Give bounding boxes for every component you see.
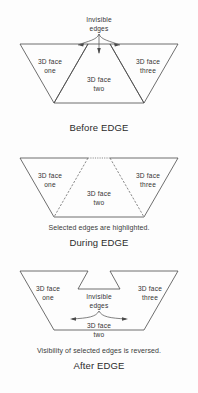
face-three-label-line2: three [140, 67, 156, 74]
face-three-label-line1: 3D face [138, 285, 162, 292]
panel-during-edge: 3D face one 3D face two 3D face three Se… [0, 152, 198, 244]
reversed-arrow-left-head [70, 317, 76, 321]
caption-before-edge: Before EDGE [0, 122, 198, 133]
face-two-label-line1: 3D face [87, 76, 111, 83]
caption-during-edge: During EDGE [0, 237, 198, 248]
selected-edge-left [54, 158, 88, 217]
face-two-label-line1: 3D face [87, 190, 111, 197]
face-two-label-line1: 3D face [87, 322, 111, 329]
face-one-label-line2: one [44, 67, 56, 74]
face-three-label-line2: three [142, 294, 158, 301]
invisible-edges-label-line2: edges [90, 25, 109, 33]
face-one-label-line1: 3D face [38, 58, 62, 65]
pointer-arrow-center-head [97, 48, 101, 54]
face-two-label-line2: two [94, 85, 105, 92]
face-three-label-line2: three [140, 181, 156, 188]
invisible-edges-label-line1: Invisible [86, 16, 112, 23]
face-two-label-line2: two [94, 331, 105, 338]
pointer-arrow-right-line [99, 34, 120, 45]
selected-edge-right [110, 158, 144, 217]
face-one-label-line2: one [44, 181, 56, 188]
edge-command-figure: Invisible edges 3D face one 3D face two … [0, 0, 198, 393]
face-one-label-line1: 3D face [38, 172, 62, 179]
reversed-arrow-right-head [122, 317, 128, 321]
reversed-arrow-right-line [99, 311, 126, 319]
invisible-edges-label-line2: edges [90, 302, 109, 310]
panel-before-edge: Invisible edges 3D face one 3D face two … [0, 0, 198, 118]
caption-after-edge: After EDGE [0, 360, 198, 371]
face-one-label-line2: one [42, 294, 54, 301]
after-edge-drawing: 3D face one 3D face three Invisible edge… [0, 265, 198, 347]
invisible-edges-label-line1: Invisible [86, 293, 112, 300]
panel-after-edge: 3D face one 3D face three Invisible edge… [0, 265, 198, 347]
before-edge-drawing: Invisible edges 3D face one 3D face two … [0, 0, 198, 118]
note-during-edge: Selected edges are highlighted. [0, 224, 198, 231]
face-three-label-line1: 3D face [136, 172, 160, 179]
face-two-label-line2: two [94, 199, 105, 206]
note-after-edge: Visibility of selected edges is reversed… [0, 347, 198, 354]
reversed-arrow-left-line [72, 311, 99, 319]
pointer-arrow-left-line [78, 34, 99, 45]
face-three-label-line1: 3D face [136, 58, 160, 65]
face-one-label-line1: 3D face [36, 285, 60, 292]
